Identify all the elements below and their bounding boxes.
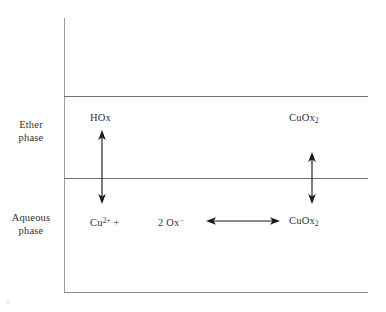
species-cuox2-aqueous-subscript: 2 xyxy=(315,220,319,228)
upper-boundary-line xyxy=(64,96,368,97)
aqueous-phase-label-line1: Aqueous xyxy=(0,211,62,224)
ether-phase-label: Ether phase xyxy=(0,118,62,144)
species-cuox2-ether-base: CuOx xyxy=(289,112,315,123)
species-copper-ion-base: Cu xyxy=(90,217,103,228)
vertical-axis-line xyxy=(64,18,65,292)
hox-transfer-arrow xyxy=(94,130,110,204)
species-cuox2-ether: CuOx2 xyxy=(289,112,319,127)
species-hox: HOx xyxy=(90,112,111,124)
species-cuox2-aqueous: CuOx2 xyxy=(289,215,319,230)
species-copper-ion: Cu2+ + xyxy=(90,215,120,229)
species-copper-ion-plus: + xyxy=(114,217,120,228)
species-oxalate-base: 2 Ox xyxy=(158,217,180,228)
phase-diagram: Ether phase Aqueous phase HOx CuOx2 Cu2+… xyxy=(0,0,386,312)
species-oxalate-charge: − xyxy=(180,217,184,225)
aqueous-phase-label-line2: phase xyxy=(0,224,62,237)
species-hox-text: HOx xyxy=(90,112,111,123)
lower-boundary-line xyxy=(64,292,368,293)
species-copper-ion-charge: 2+ xyxy=(103,217,111,225)
corner-artifact xyxy=(6,300,10,304)
ether-phase-label-line1: Ether xyxy=(0,118,62,131)
aqueous-phase-label: Aqueous phase xyxy=(0,211,62,237)
species-oxalate: 2 Ox− xyxy=(158,215,184,229)
species-cuox2-ether-subscript: 2 xyxy=(315,117,319,125)
equilibrium-arrow xyxy=(206,214,280,228)
species-cuox2-aqueous-base: CuOx xyxy=(289,215,315,226)
cuox2-transfer-arrow xyxy=(304,152,320,204)
ether-phase-label-line2: phase xyxy=(0,131,62,144)
